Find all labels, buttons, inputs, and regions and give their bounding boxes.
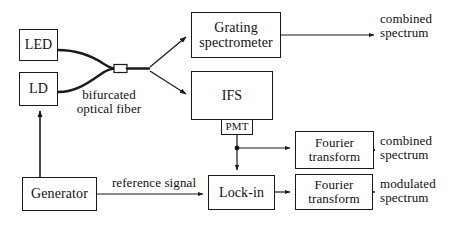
node-ld-label: LD <box>29 81 48 96</box>
node-fourier-transform-1[interactable]: Fourier transform <box>295 131 374 169</box>
node-ld[interactable]: LD <box>19 72 58 106</box>
node-led[interactable]: LED <box>19 29 58 61</box>
node-grating-spectrometer-label: Grating spectrometer <box>199 20 273 50</box>
node-ifs[interactable]: IFS <box>191 71 273 120</box>
node-lock-in-label: Lock-in <box>219 185 264 200</box>
block-diagram: LED LD Grating spectrometer IFS PMT Four… <box>0 0 474 225</box>
node-fourier-transform-2[interactable]: Fourier transform <box>295 174 373 210</box>
node-pmt[interactable]: PMT <box>221 119 253 135</box>
node-lock-in[interactable]: Lock-in <box>208 175 275 210</box>
label-reference-signal: reference signal <box>100 176 208 190</box>
arrow-fiber-to-grating <box>150 37 186 67</box>
node-generator-label: Generator <box>31 186 88 201</box>
label-output-modulated-spectrum: modulated spectrum <box>380 177 474 205</box>
node-led-label: LED <box>25 37 53 52</box>
node-fourier-transform-2-label: Fourier transform <box>308 178 359 206</box>
node-ifs-label: IFS <box>222 88 243 103</box>
node-grating-spectrometer[interactable]: Grating spectrometer <box>191 12 281 58</box>
label-bifurcated-optical-fiber: bifurcated optical fiber <box>61 88 157 116</box>
node-pmt-label: PMT <box>226 121 249 133</box>
fiber-branch-led <box>58 50 114 69</box>
node-fourier-transform-1-label: Fourier transform <box>309 136 360 164</box>
label-output-combined-spectrum-grating: combined spectrum <box>380 12 470 40</box>
label-output-combined-spectrum-fourier: combined spectrum <box>380 134 470 162</box>
node-generator[interactable]: Generator <box>22 177 97 211</box>
fiber-connector <box>114 65 127 73</box>
